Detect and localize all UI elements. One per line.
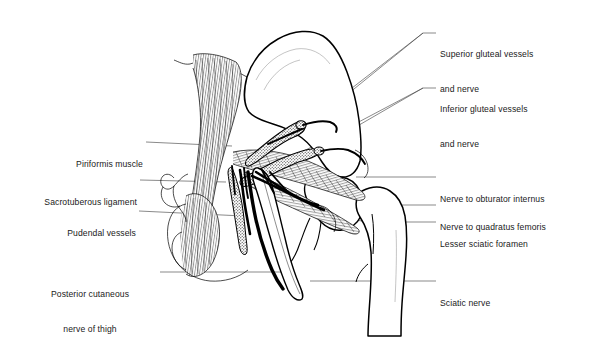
label-line-1: Pudendal vessels xyxy=(0,228,136,240)
label-line-1: Piriformis muscle xyxy=(0,159,143,171)
label-line-1: Sciatic nerve xyxy=(440,298,490,310)
label-pudendal-vessels: Pudendal vessels xyxy=(0,205,136,251)
label-line-2: and nerve xyxy=(440,139,528,151)
femur-bone xyxy=(356,187,407,336)
label-line-2: nerve of thigh xyxy=(20,324,160,336)
label-posterior-cutaneous-nerve-of-thigh: Posterior cutaneous nerve of thigh xyxy=(20,266,160,338)
label-line-1: Superior gluteal vessels xyxy=(440,49,533,61)
label-line-1: Posterior cutaneous xyxy=(20,289,160,301)
label-line-1: Inferior gluteal vessels xyxy=(440,104,528,116)
label-lesser-sciatic-foramen: Lesser sciatic foramen xyxy=(440,216,528,262)
label-sciatic-nerve: Sciatic nerve xyxy=(440,275,490,321)
label-line-1: Lesser sciatic foramen xyxy=(440,239,528,251)
label-inferior-gluteal-vessels-and-nerve: Inferior gluteal vessels and nerve xyxy=(440,81,528,162)
